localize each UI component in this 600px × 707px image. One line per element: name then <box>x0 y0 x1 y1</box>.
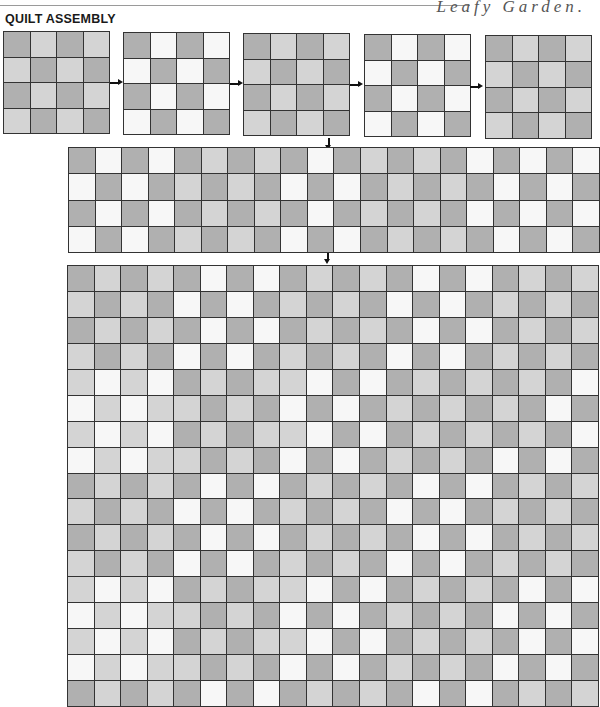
strip-square <box>573 227 599 252</box>
block-square <box>513 62 539 87</box>
strip-square <box>255 174 281 199</box>
quilt-square <box>280 266 306 291</box>
strip-square <box>334 201 360 226</box>
quilt-square <box>95 629 121 654</box>
block-square <box>57 109 83 134</box>
strip-square <box>255 201 281 226</box>
quilt-square <box>121 655 147 680</box>
strip-square <box>547 148 573 173</box>
quilt-square <box>440 681 466 706</box>
strip-square <box>414 201 440 226</box>
quilt-top <box>67 265 599 707</box>
arrow-down-icon <box>328 138 330 146</box>
quilt-square <box>333 681 359 706</box>
block-square <box>84 32 110 57</box>
strip-square <box>228 148 254 173</box>
strip-square <box>414 174 440 199</box>
strip-square <box>361 227 387 252</box>
strip-square <box>281 174 307 199</box>
quilt-square <box>280 344 306 369</box>
strip-square <box>308 227 334 252</box>
strip-square <box>467 174 493 199</box>
quilt-square <box>546 448 572 473</box>
quilt-square <box>201 318 227 343</box>
quilt-square <box>333 396 359 421</box>
quilt-square <box>440 551 466 576</box>
quilt-square <box>148 655 174 680</box>
quilt-square <box>493 551 519 576</box>
quilt-square <box>333 603 359 628</box>
quilt-square <box>307 266 333 291</box>
quilt-square <box>360 422 386 447</box>
quilt-square <box>519 551 545 576</box>
strip-square <box>441 227 467 252</box>
quilt-square <box>387 344 413 369</box>
quilt-square <box>519 448 545 473</box>
quilt-square <box>519 655 545 680</box>
strip-square <box>361 148 387 173</box>
quilt-square <box>227 370 253 395</box>
strip-square <box>149 148 175 173</box>
quilt-square <box>254 292 280 317</box>
strip-square <box>388 201 414 226</box>
strip-square <box>520 201 546 226</box>
quilt-square <box>307 370 333 395</box>
quilt-square <box>440 344 466 369</box>
quilt-square <box>95 266 121 291</box>
quilt-square <box>360 551 386 576</box>
quilt-square <box>572 603 598 628</box>
quilt-square <box>519 681 545 706</box>
block-square <box>324 60 350 85</box>
quilt-square <box>387 448 413 473</box>
quilt-square <box>519 603 545 628</box>
quilt-square <box>546 603 572 628</box>
strip-square <box>149 201 175 226</box>
quilt-square <box>413 318 439 343</box>
quilt-square <box>254 448 280 473</box>
quilt-square <box>95 499 121 524</box>
block-square <box>4 32 30 57</box>
quilt-square <box>227 474 253 499</box>
block-square <box>244 34 270 59</box>
quilt-square <box>333 474 359 499</box>
quilt-square <box>572 370 598 395</box>
quilt-square <box>254 344 280 369</box>
quilt-square <box>493 344 519 369</box>
quilt-square <box>333 448 359 473</box>
quilt-square <box>280 292 306 317</box>
quilt-square <box>360 370 386 395</box>
block-square <box>566 36 592 61</box>
quilt-square <box>546 474 572 499</box>
block-square <box>4 83 30 108</box>
strip-square <box>547 201 573 226</box>
quilt-square <box>360 448 386 473</box>
block-square <box>539 62 565 87</box>
quilt-square <box>440 629 466 654</box>
quilt-square <box>148 525 174 550</box>
quilt-square <box>466 499 492 524</box>
quilt-square <box>174 396 200 421</box>
quilt-square <box>413 525 439 550</box>
block-square <box>566 62 592 87</box>
quilt-square <box>254 422 280 447</box>
strip-square <box>520 148 546 173</box>
quilt-square <box>333 370 359 395</box>
quilt-square <box>148 474 174 499</box>
quilt-square <box>148 448 174 473</box>
strip-square <box>414 227 440 252</box>
quilt-square <box>360 629 386 654</box>
strip-square <box>96 201 122 226</box>
strip-square <box>573 174 599 199</box>
block-square <box>124 59 150 84</box>
quilt-square <box>95 681 121 706</box>
arrow-right-icon <box>110 82 120 84</box>
block-square <box>204 33 230 58</box>
quilt-square <box>280 629 306 654</box>
quilt-square <box>466 551 492 576</box>
block-square <box>392 112 418 137</box>
quilt-square <box>95 448 121 473</box>
block-square <box>365 86 391 111</box>
block-square <box>57 83 83 108</box>
quilt-square <box>174 499 200 524</box>
arrow-right-icon <box>230 83 240 85</box>
